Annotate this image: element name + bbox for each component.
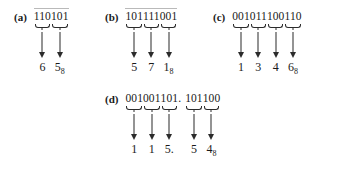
down-arrow-icon (130, 32, 139, 58)
octal-digit-cell: 1 (235, 60, 247, 74)
arrow-head (148, 52, 154, 58)
arrow-cell (289, 32, 298, 58)
arrow-cell (271, 32, 280, 58)
arrow-cell (189, 114, 198, 140)
under-brace-icon (284, 23, 301, 29)
arrow-shaft (151, 32, 152, 53)
octal-digit-cell: 5. (163, 142, 175, 156)
under-brace-icon (51, 23, 69, 29)
arrow-shaft (211, 114, 212, 135)
base-subscript: 8 (61, 65, 65, 79)
down-arrow-icon (189, 114, 198, 140)
octal-digit: 5. (165, 142, 174, 156)
arrow-shaft (275, 32, 276, 53)
arrow-cell (38, 32, 47, 58)
under-brace-icon (267, 23, 285, 29)
arrow-head (273, 52, 279, 58)
under-brace-icon (125, 23, 143, 29)
bit-group: 101 (161, 92, 179, 111)
arrow-head (255, 52, 261, 58)
arrow-head (166, 52, 172, 58)
bit-group: 001 (232, 10, 250, 29)
arrow-cell (207, 114, 216, 140)
arrow-row (34, 32, 69, 58)
octal-digit: 3 (255, 60, 261, 74)
under-brace-icon (143, 23, 160, 29)
down-arrow-icon (130, 114, 139, 140)
down-arrow-icon (165, 114, 174, 140)
octal-digit: 6 (39, 60, 45, 74)
binary-string: 001001101.101100 (125, 92, 220, 111)
under-brace-icon (161, 105, 179, 111)
octal-digit-cell: 18 (163, 60, 175, 76)
arrow-shaft (134, 32, 135, 53)
arrow-shaft (59, 32, 60, 53)
base-subscript: 8 (294, 65, 298, 79)
item-body: 00101110011013468 (232, 10, 301, 75)
down-arrow-icon (55, 32, 64, 58)
arrow-shaft (168, 32, 169, 53)
arrow-cell (130, 114, 139, 140)
down-arrow-icon (164, 32, 173, 58)
octal-digit: 5 (191, 142, 197, 156)
arrow-head (57, 52, 63, 58)
arrow-shaft (42, 32, 43, 53)
arrow-row (125, 32, 177, 58)
arrow-shaft (293, 32, 294, 53)
bit-group-digits: 001 (125, 92, 143, 105)
bit-group: 011 (250, 10, 267, 29)
arrow-cell (130, 32, 139, 58)
binary-string: 101111001 (125, 10, 177, 29)
bit-group: 110 (34, 10, 51, 29)
conversion-item: (a)110101658 (14, 10, 69, 75)
item-body: 001001101.101100115.548 (125, 92, 220, 157)
binary-to-octal-figure: (a)110101658(b)1011110015718(c)001011100… (0, 0, 338, 184)
down-arrow-icon (38, 32, 47, 58)
octal-digit-cell: 6 (36, 60, 48, 74)
arrow-row (232, 32, 301, 58)
down-arrow-icon (147, 114, 156, 140)
octal-digit: 1 (238, 60, 244, 74)
arrow-shaft (169, 114, 170, 135)
down-arrow-icon (207, 114, 216, 140)
bit-group: 101 (125, 10, 143, 29)
octal-digit-cell: 68 (287, 60, 299, 76)
bit-group: 100 (203, 92, 221, 111)
octal-digit: 7 (148, 60, 154, 74)
bit-group: 001 (160, 10, 178, 29)
bit-group-digits: 110 (34, 10, 51, 23)
arrow-cell (237, 32, 246, 58)
bit-group: 101 (185, 92, 203, 111)
arrow-head (131, 52, 137, 58)
octal-digit-cell: 3 (252, 60, 264, 74)
arrow-cell (147, 32, 156, 58)
arrow-cell (165, 114, 174, 140)
bit-group-digits: 100 (267, 10, 285, 23)
binary-string: 001011100110 (232, 10, 301, 29)
bit-group: 001 (125, 92, 143, 111)
arrow-head (290, 52, 296, 58)
under-brace-icon (203, 105, 221, 111)
octal-result: 115.548 (125, 142, 220, 157)
item-label: (c) (213, 10, 225, 23)
arrow-head (208, 134, 214, 140)
bit-group-digits: 101 (185, 92, 203, 105)
item-body: 110101658 (34, 10, 69, 75)
bit-group-digits: 110 (284, 10, 301, 23)
arrow-cell (147, 114, 156, 140)
bit-group-digits: 100 (203, 92, 221, 105)
under-brace-icon (34, 23, 51, 29)
bit-group-digits: 101 (51, 10, 69, 23)
under-brace-icon (250, 23, 267, 29)
base-subscript: 8 (212, 147, 216, 161)
item-label: (d) (105, 92, 118, 105)
under-brace-icon (185, 105, 203, 111)
octal-digit-cell: 48 (205, 142, 217, 158)
bit-group: 111 (143, 10, 160, 29)
bit-group-digits: 011 (250, 10, 267, 23)
arrow-head (191, 134, 197, 140)
bit-group: 101 (51, 10, 69, 29)
octal-digit-cell: 5 (128, 60, 140, 74)
arrow-cell (254, 32, 263, 58)
bit-group-digits: 001 (160, 10, 178, 23)
